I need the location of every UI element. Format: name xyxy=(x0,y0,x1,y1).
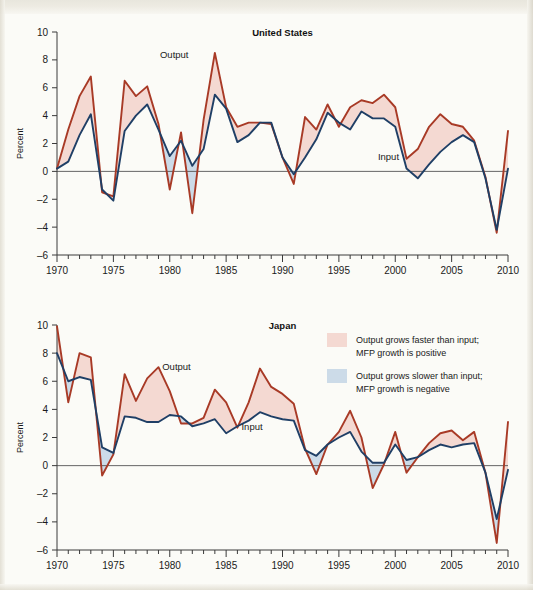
legend-label-line2: MFP growth is positive xyxy=(356,348,446,358)
series-annotation-input: Input xyxy=(241,421,262,432)
y-tick-label: 6 xyxy=(42,376,48,387)
x-tick-label: 1975 xyxy=(102,265,125,276)
y-tick-label: –6 xyxy=(37,545,49,556)
x-tick-label: 1980 xyxy=(159,265,182,276)
y-tick-label: 0 xyxy=(42,166,48,177)
y-tick-label: –2 xyxy=(37,488,49,499)
x-tick-label: 1980 xyxy=(159,560,182,571)
y-tick-label: 10 xyxy=(37,27,49,38)
chart-title: Japan xyxy=(269,320,297,331)
positive-mfp-area xyxy=(341,95,490,196)
negative-mfp-area xyxy=(260,123,283,158)
x-tick-label: 2005 xyxy=(441,265,464,276)
series-annotation-input: Input xyxy=(378,151,399,162)
y-tick-label: 2 xyxy=(42,432,48,443)
legend-label-line2: MFP growth is negative xyxy=(356,384,450,394)
x-tick-label: 1990 xyxy=(271,560,294,571)
y-tick-label: –4 xyxy=(37,516,49,527)
legend-label-line1: Output grows slower than input; xyxy=(356,371,483,381)
x-tick-label: 1970 xyxy=(46,560,69,571)
legend-swatch-negative xyxy=(327,369,347,383)
mfp-shaded-areas xyxy=(57,326,508,543)
y-tick-label: 2 xyxy=(42,138,48,149)
x-tick-label: 1995 xyxy=(328,560,351,571)
x-tick-label: 2005 xyxy=(441,560,464,571)
y-axis-label: Percent xyxy=(15,421,25,453)
y-tick-label: 4 xyxy=(42,404,48,415)
chart-panel-united-states: –6–4–20246810197019751980198519901995200… xyxy=(0,10,533,300)
y-tick-label: –2 xyxy=(37,194,49,205)
y-tick-label: 6 xyxy=(42,82,48,93)
chart-legend: Output grows faster than input;MFP growt… xyxy=(327,333,483,394)
x-tick-label: 1990 xyxy=(271,265,294,276)
x-tick-label: 1970 xyxy=(46,265,69,276)
legend-swatch-positive xyxy=(327,333,347,347)
y-tick-label: 4 xyxy=(42,110,48,121)
positive-mfp-area xyxy=(199,53,260,156)
x-tick-label: 2010 xyxy=(497,560,520,571)
x-tick-label: 2000 xyxy=(384,560,407,571)
x-tick-label: 1995 xyxy=(328,265,351,276)
series-annotation-output: Output xyxy=(162,361,191,372)
y-tick-label: 8 xyxy=(42,348,48,359)
chart-title: United States xyxy=(252,27,313,38)
japan-chart-svg: –6–4–20246810197019751980198519901995200… xyxy=(0,300,533,585)
y-tick-label: 0 xyxy=(42,460,48,471)
x-tick-label: 2000 xyxy=(384,265,407,276)
chart-panel-japan: –6–4–20246810197019751980198519901995200… xyxy=(0,300,533,585)
y-tick-label: 8 xyxy=(42,54,48,65)
positive-mfp-area xyxy=(57,77,101,185)
x-tick-label: 1975 xyxy=(102,560,125,571)
y-tick-label: –6 xyxy=(37,250,49,261)
united-states-chart-svg: –6–4–20246810197019751980198519901995200… xyxy=(0,10,533,300)
x-tick-label: 2010 xyxy=(497,265,520,276)
series-annotation-output: Output xyxy=(160,49,189,60)
y-axis-label: Percent xyxy=(15,127,25,159)
x-tick-label: 1985 xyxy=(215,265,238,276)
x-tick-label: 1985 xyxy=(215,560,238,571)
y-tick-label: –4 xyxy=(37,222,49,233)
legend-label-line1: Output grows faster than input; xyxy=(356,335,479,345)
y-tick-label: 10 xyxy=(37,320,49,331)
